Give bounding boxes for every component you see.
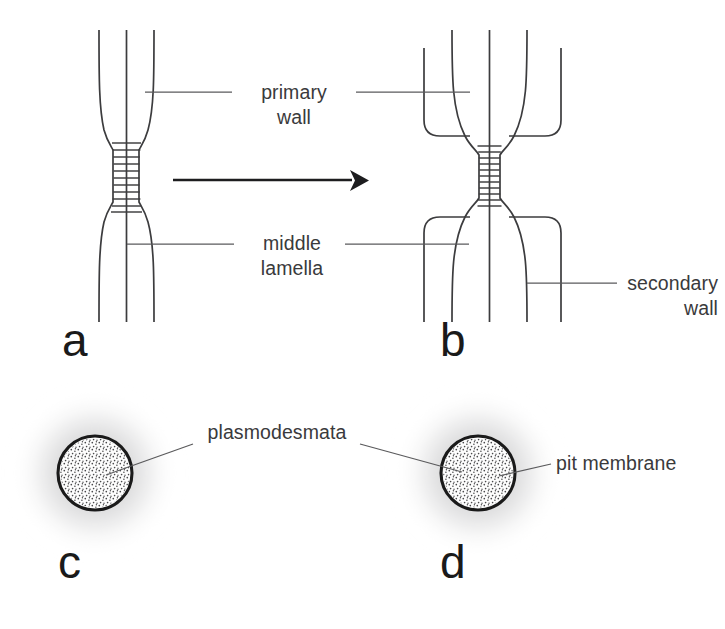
secondary-wall-label-line1: secondary — [627, 272, 718, 294]
panel-a-letter: a — [62, 314, 88, 366]
panel-c-stipple — [60, 438, 130, 508]
plasmodesmata-label: plasmodesmata — [208, 421, 347, 443]
pit-membrane-label: pit membrane — [556, 452, 676, 474]
panel-d-stipple — [443, 438, 513, 508]
panel-c-letter: c — [58, 536, 81, 588]
diagram-canvas: a — [0, 0, 725, 629]
panel-d-letter: d — [440, 536, 466, 588]
figure-container: a — [0, 0, 725, 629]
middle-lamella-label-line1: middle — [263, 232, 321, 254]
secondary-wall-label-line2: wall — [683, 297, 718, 319]
panel-b-letter: b — [440, 314, 466, 366]
middle-lamella-label-line2: lamella — [261, 257, 324, 279]
primary-wall-label-line2: wall — [276, 106, 311, 128]
primary-wall-label-line1: primary — [261, 81, 327, 103]
